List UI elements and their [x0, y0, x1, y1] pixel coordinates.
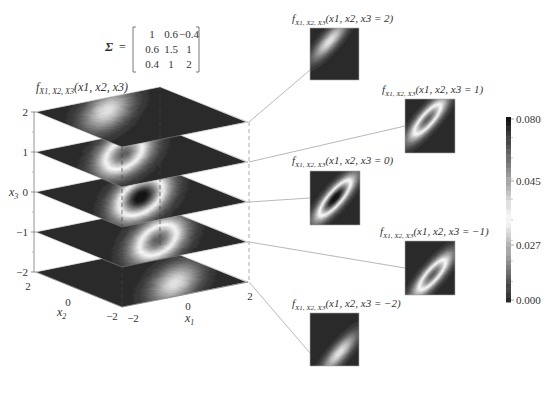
colorbar-segment — [506, 265, 511, 270]
colorbar-segment — [506, 279, 511, 284]
x3-tick-label: 0 — [23, 186, 29, 198]
connector-line — [249, 282, 310, 353]
colorbar-segment — [506, 126, 511, 131]
slice-heatmap — [310, 313, 359, 366]
matrix-cell: 1 — [168, 58, 174, 70]
x3-tick-label: −2 — [16, 266, 28, 278]
sigma-matrix: Σ = 10.6−0.40.61.510.412 — [104, 27, 199, 72]
connector-line — [249, 70, 310, 122]
connector-line — [249, 198, 310, 202]
slice-title: fX1, X2, X3(x1, x2, x3 = 2) — [292, 12, 394, 27]
colorbar-segment — [506, 131, 511, 136]
colorbar-segment — [506, 228, 511, 233]
x1-tick-label: 2 — [247, 290, 253, 302]
slice-heatmap — [310, 28, 359, 80]
colorbar-segment — [506, 205, 511, 210]
slice-panels: fX1, X2, X3(x1, x2, x3 = 2)fX1, X2, X3(x… — [292, 12, 489, 366]
colorbar-segment — [506, 186, 511, 191]
colorbar-segment — [506, 191, 511, 196]
colorbar-segment — [506, 260, 511, 265]
slice-heatmap — [310, 171, 360, 225]
colorbar-segment — [506, 247, 511, 252]
x3-tick-label: 1 — [23, 146, 29, 158]
colorbar-segment — [506, 256, 511, 261]
colorbar-segment — [506, 284, 511, 289]
x1-tick-label: −2 — [127, 312, 139, 324]
slice-heatmap — [405, 241, 455, 295]
slice-title: fX1, X2, X3(x1, x2, x3 = −1) — [380, 225, 489, 240]
colorbar-segment — [506, 297, 511, 302]
colorbar-segment — [506, 163, 511, 168]
colorbar-tick-label: 0.027 — [516, 239, 541, 251]
x3-axis-label: x3 — [8, 185, 18, 201]
colorbar-segment — [506, 274, 511, 279]
slice-panel: fX1, X2, X3(x1, x2, x3 = −1) — [380, 225, 489, 295]
matrix-cell: 2 — [186, 58, 192, 70]
colorbar-segment — [506, 140, 511, 145]
colorbar-segment — [506, 173, 511, 178]
colorbar-segment — [506, 154, 511, 159]
slice-panel: fX1, X2, X3(x1, x2, x3 = 1) — [382, 83, 484, 153]
colorbar-segment — [506, 145, 511, 150]
colorbar-segment — [506, 293, 511, 298]
colorbar-segment — [506, 251, 511, 256]
matrix-cell: 1 — [186, 43, 192, 55]
colorbar-segment — [506, 288, 511, 293]
main-pdf-label: fX1, X2, X3(x1, x2, x3) — [36, 80, 128, 96]
colorbar-segment — [506, 237, 511, 242]
matrix-cell: 0.4 — [145, 58, 159, 70]
slice-panel: fX1, X2, X3(x1, x2, x3 = 2) — [292, 12, 394, 80]
sigma-equals: = — [119, 40, 126, 54]
colorbar-segment — [506, 149, 511, 154]
colorbar-segment — [506, 223, 511, 228]
colorbar-segment — [506, 233, 511, 238]
x2-tick-label: 2 — [25, 280, 31, 292]
colorbar-segment — [506, 168, 511, 173]
colorbar-segment — [506, 182, 511, 187]
colorbar-segment — [506, 214, 511, 219]
slice-plane-3d — [36, 87, 248, 147]
slice-title: fX1, X2, X3(x1, x2, x3 = 0) — [292, 154, 394, 169]
matrix-cell: 1 — [149, 28, 155, 40]
colorbar-segment — [506, 117, 511, 122]
colorbar: 0.0800.0450.0270.000 — [506, 113, 541, 306]
matrix-cell: 1.5 — [164, 43, 178, 55]
x2-tick-label: 0 — [65, 296, 71, 308]
matrix-cell: −0.4 — [179, 28, 199, 40]
colorbar-segment — [506, 242, 511, 247]
matrix-left-bracket — [133, 27, 136, 72]
slice-title: fX1, X2, X3(x1, x2, x3 = −2) — [292, 297, 401, 312]
connector-line — [249, 242, 405, 268]
colorbar-segment — [506, 270, 511, 275]
colorbar-segment — [506, 210, 511, 215]
figure: Σ = 10.6−0.40.61.510.412 fX1, X2, X3(x1,… — [0, 0, 547, 394]
matrix-cell: 0.6 — [145, 43, 159, 55]
x3-tick-label: −1 — [16, 226, 28, 238]
slice-title: fX1, X2, X3(x1, x2, x3 = 1) — [382, 83, 484, 98]
colorbar-segment — [506, 219, 511, 224]
slice-heatmap — [405, 99, 455, 153]
colorbar-tick-label: 0.045 — [516, 175, 541, 187]
colorbar-segment — [506, 159, 511, 164]
sigma-symbol: Σ — [104, 39, 113, 54]
colorbar-tick-label: 0.080 — [516, 113, 541, 125]
slice-panel: fX1, X2, X3(x1, x2, x3 = 0) — [292, 154, 394, 225]
colorbar-segment — [506, 177, 511, 182]
colorbar-segment — [506, 136, 511, 141]
colorbar-segment — [506, 122, 511, 127]
slice-stack-3d: 210−1−220−2−202 — [16, 87, 252, 324]
matrix-cell: 0.6 — [164, 28, 178, 40]
colorbar-tick-label: 0.000 — [516, 294, 541, 306]
x3-tick-label: 2 — [23, 106, 29, 118]
x2-tick-label: −2 — [106, 310, 118, 322]
x1-axis-label: x1 — [184, 311, 194, 327]
colorbar-segment — [506, 200, 511, 205]
colorbar-segment — [506, 196, 511, 201]
slice-density-image — [36, 87, 246, 147]
slice-panel: fX1, X2, X3(x1, x2, x3 = −2) — [292, 297, 401, 366]
